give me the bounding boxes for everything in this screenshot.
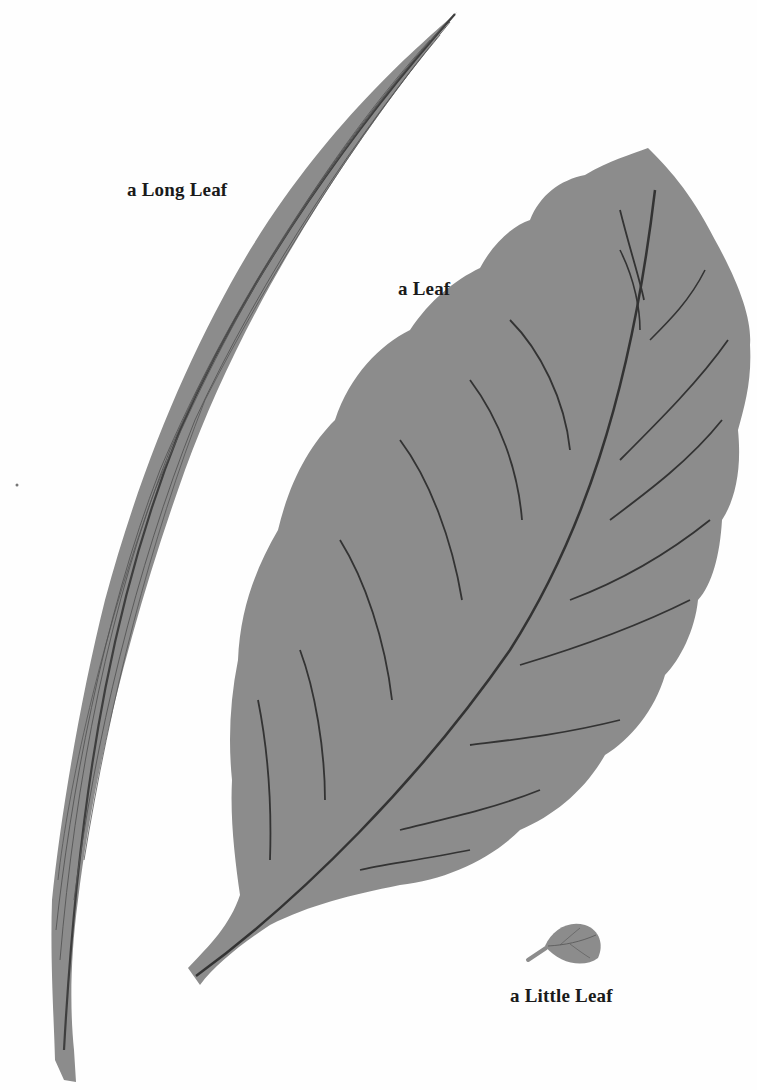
leaf-illustrations: [0, 0, 757, 1090]
label-leaf: a Leaf: [398, 278, 450, 300]
little-leaf-illustration: [528, 924, 601, 964]
speck: [16, 484, 19, 487]
book-page: a Long Leaf a Leaf a Little Leaf: [0, 0, 757, 1090]
label-long-leaf: a Long Leaf: [127, 179, 227, 201]
label-little-leaf: a Little Leaf: [510, 985, 613, 1007]
